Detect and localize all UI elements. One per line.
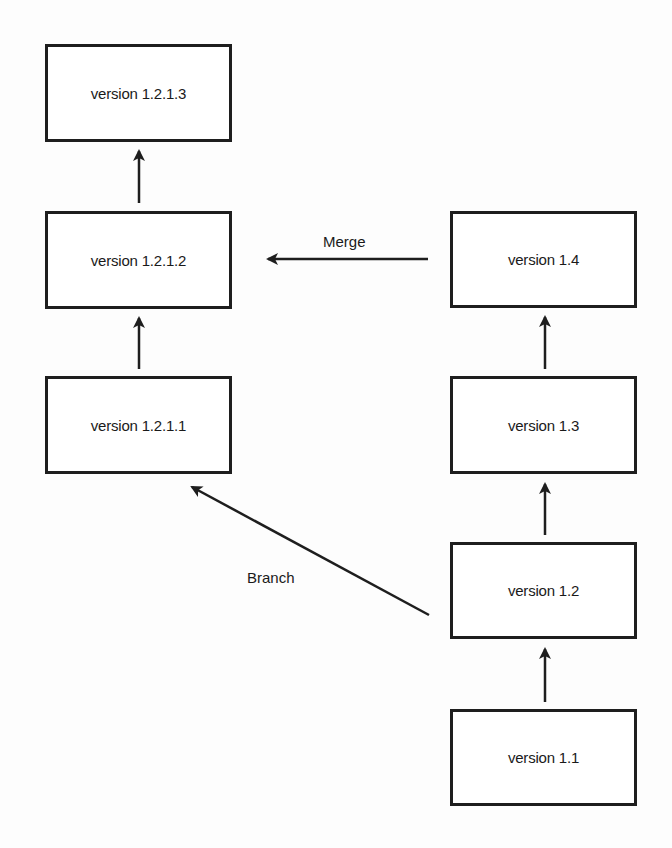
node-label: version 1.4 (508, 251, 579, 268)
node-version-1-2-1-2: version 1.2.1.2 (45, 211, 232, 309)
node-version-1-2-1-1: version 1.2.1.1 (45, 376, 232, 474)
node-version-1-1: version 1.1 (450, 709, 637, 806)
node-label: version 1.1 (508, 749, 579, 766)
node-version-1-2: version 1.2 (450, 542, 637, 639)
node-label: version 1.2.1.3 (91, 85, 186, 102)
node-version-1-3: version 1.3 (450, 376, 637, 474)
node-version-1-2-1-3: version 1.2.1.3 (45, 44, 232, 142)
node-label: version 1.2 (508, 582, 579, 599)
node-version-1-4: version 1.4 (450, 211, 637, 308)
branch-label: Branch (247, 569, 295, 586)
branch-arrow (192, 487, 429, 615)
node-label: version 1.2.1.2 (91, 252, 186, 269)
node-label: version 1.2.1.1 (91, 417, 186, 434)
merge-label: Merge (323, 233, 366, 250)
node-label: version 1.3 (508, 417, 579, 434)
